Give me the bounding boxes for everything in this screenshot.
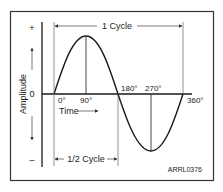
tick-0: 0° [58, 96, 66, 105]
amplitude-minus: – [29, 155, 34, 165]
amplitude-label: Amplitude [18, 74, 28, 114]
time-label: Time [59, 106, 79, 116]
tick-90: 90° [80, 96, 92, 105]
tick-360: 360° [187, 96, 204, 105]
tick-270: 270° [145, 84, 162, 93]
full-cycle-label: 1 Cycle [102, 21, 132, 31]
figure-credit: ARRL0376 [168, 166, 202, 173]
amplitude-plus: + [29, 23, 34, 33]
half-cycle-label: 1/2 Cycle [67, 154, 105, 164]
tick-180: 180° [121, 84, 138, 93]
sine-wave-diagram: 1 Cycle 1/2 Cycle + 0 – Amplitude 0° 90°… [0, 0, 223, 192]
amplitude-zero: 0 [29, 89, 34, 99]
